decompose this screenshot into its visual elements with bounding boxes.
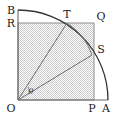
label-P: P [88, 102, 96, 115]
label-S: S [97, 43, 105, 56]
label-B: B [7, 4, 15, 17]
label-R: R [7, 17, 16, 30]
geometry-canvas: B R T Q S O P A θ [0, 0, 117, 122]
label-A: A [101, 102, 111, 115]
label-T: T [63, 8, 71, 21]
label-theta: θ [29, 87, 34, 96]
label-Q: Q [96, 10, 105, 23]
geometry-figure: B R T Q S O P A θ [0, 0, 117, 122]
label-O: O [6, 102, 15, 115]
